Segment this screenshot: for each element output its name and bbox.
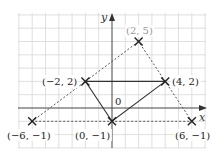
point-label-4-2: (4, 2) bbox=[172, 76, 199, 87]
point-label-6-neg1: (6, −1) bbox=[175, 130, 210, 141]
origin-label: 0 bbox=[115, 96, 121, 107]
point-label-2-5: (2, 5) bbox=[126, 25, 153, 36]
point-label-neg2-2: (−2, 2) bbox=[42, 76, 77, 87]
x-axis-label: x bbox=[199, 111, 206, 124]
coordinate-diagram: x y 0 (2, 5) (−2, 2) (4, 2) (−6, −1) (0,… bbox=[0, 0, 218, 157]
point-label-0-neg1: (0, −1) bbox=[75, 130, 110, 141]
y-axis-arrow-icon bbox=[109, 13, 115, 21]
y-axis-label: y bbox=[100, 11, 108, 24]
point-label-neg6-neg1: (−6, −1) bbox=[7, 130, 51, 141]
